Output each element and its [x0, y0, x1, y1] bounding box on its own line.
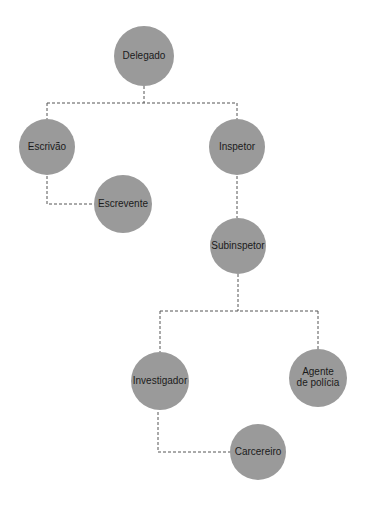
node-escrevente: Escrevente [94, 175, 152, 233]
node-agente: Agentede polícia [289, 349, 347, 407]
node-label: Subinspetor [211, 240, 265, 251]
node-label: de polícia [297, 377, 340, 388]
nodes: DelegadoEscrivãoInspetorEscreventeSubins… [19, 26, 347, 480]
org-chart: DelegadoEscrivãoInspetorEscreventeSubins… [0, 0, 366, 506]
node-delegado: Delegado [114, 26, 174, 86]
node-label: Inspetor [219, 141, 256, 152]
node-subinspetor: Subinspetor [210, 218, 266, 274]
node-carcereiro: Carcereiro [230, 424, 286, 480]
node-investigador: Investigador [131, 352, 189, 410]
connector-investigador-carcereiro [158, 412, 230, 452]
node-label: Escrivão [28, 141, 67, 152]
connector-escrivao-escrevente [47, 176, 94, 204]
node-label: Escrevente [98, 198, 148, 209]
node-label: Delegado [123, 50, 166, 61]
connector-subinspetor-branch [160, 274, 318, 352]
connector-delegado-branch [47, 86, 237, 119]
node-label: Carcereiro [235, 446, 282, 457]
node-label: Agente [302, 366, 334, 377]
node-inspetor: Inspetor [209, 119, 265, 175]
node-escrivao: Escrivão [19, 119, 75, 175]
node-label: Investigador [133, 375, 188, 386]
